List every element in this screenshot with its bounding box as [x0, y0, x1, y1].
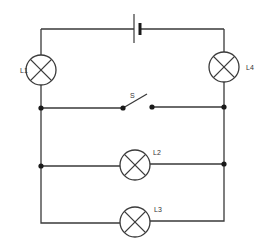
- junction-dot: [221, 104, 226, 109]
- circuit-diagram: L1 L4 S L2 L3: [0, 0, 264, 248]
- lamp-l2-label: L2: [153, 149, 161, 156]
- lamp-l4-label: L4: [246, 64, 254, 71]
- left-wire: [41, 29, 120, 223]
- switch-contact-dot: [120, 105, 125, 110]
- lamp-l4-icon: [209, 52, 239, 82]
- lamp-l2-icon: [120, 150, 150, 180]
- switch-contact-dot: [149, 104, 154, 109]
- battery-icon: [134, 14, 140, 43]
- junction-dot: [38, 163, 43, 168]
- switch-label: S: [130, 92, 135, 99]
- switch-row-wire: [41, 107, 224, 108]
- lamp-l3-icon: [120, 207, 150, 237]
- junction-dot: [221, 161, 226, 166]
- lamp-l1-icon: [26, 55, 56, 85]
- switch-lever: [123, 94, 147, 108]
- junction-dot: [38, 105, 43, 110]
- lamp-l3-label: L3: [154, 206, 162, 213]
- lamp-l1-label: L1: [20, 67, 28, 74]
